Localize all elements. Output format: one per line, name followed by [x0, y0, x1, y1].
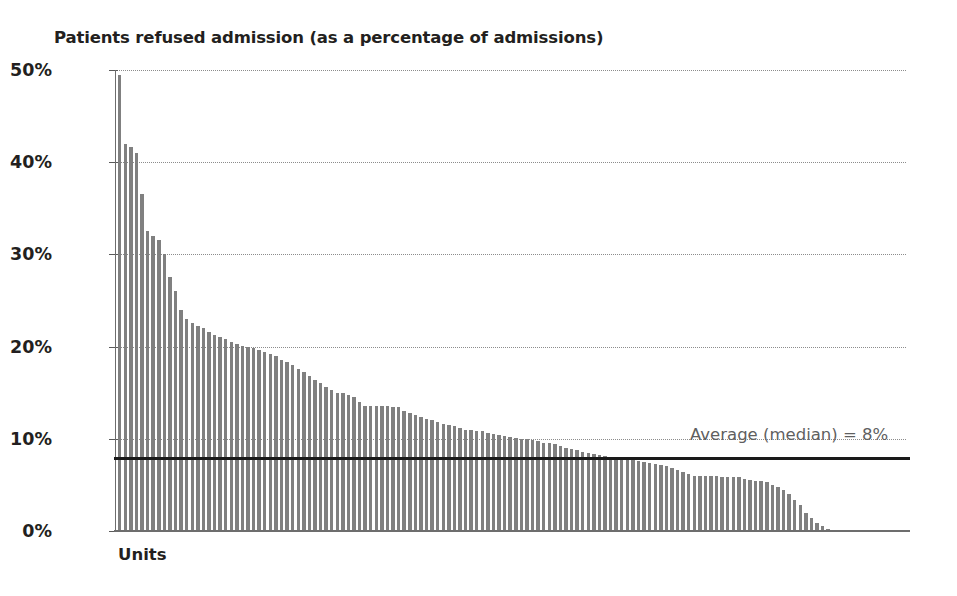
bar [704, 476, 707, 531]
bar [497, 435, 500, 531]
bar [302, 372, 305, 531]
bar [308, 376, 311, 531]
bar [246, 347, 249, 531]
bar [313, 380, 316, 531]
page-title: Patients refused admission (as a percent… [54, 28, 603, 47]
bar [754, 481, 757, 531]
y-tick-label-50: 50% [0, 60, 52, 80]
bar [642, 462, 645, 531]
bar [230, 342, 233, 531]
bar [687, 474, 690, 531]
bar [118, 75, 121, 531]
bar [732, 477, 735, 531]
bar [681, 472, 684, 531]
bar [168, 277, 171, 531]
bar [503, 436, 506, 531]
bar [570, 449, 573, 531]
y-tick-20 [109, 347, 118, 348]
bar [715, 476, 718, 531]
bar [654, 464, 657, 531]
bar [464, 430, 467, 531]
bar [581, 452, 584, 531]
bar [280, 360, 283, 531]
bar [776, 487, 779, 531]
bar [481, 431, 484, 531]
bar [363, 406, 366, 531]
bar [676, 470, 679, 531]
bar [453, 426, 456, 531]
bar [269, 354, 272, 531]
bar [336, 393, 339, 531]
bar [787, 494, 790, 531]
y-tick-30 [109, 254, 118, 255]
y-tick-label-10: 10% [0, 429, 52, 449]
bar [759, 481, 762, 531]
bar [414, 415, 417, 531]
bar [469, 430, 472, 531]
bar [129, 147, 132, 531]
bar [380, 406, 383, 531]
bar [425, 419, 428, 531]
bar [263, 352, 266, 531]
bar [330, 390, 333, 531]
bar [799, 505, 802, 531]
bar [135, 153, 138, 531]
bar [179, 310, 182, 531]
bar [531, 440, 534, 531]
bar [575, 450, 578, 531]
bar [191, 323, 194, 531]
bar [369, 406, 372, 531]
bar [397, 407, 400, 531]
bar [804, 513, 807, 531]
bar [358, 402, 361, 531]
bar [631, 460, 634, 531]
bar [447, 425, 450, 531]
bar [564, 448, 567, 531]
bar [241, 346, 244, 531]
bar [603, 456, 606, 531]
bar [213, 335, 216, 531]
bar [408, 413, 411, 531]
bar [709, 476, 712, 531]
bar [475, 431, 478, 531]
bar [157, 240, 160, 531]
y-tick-50 [109, 70, 118, 71]
y-tick-label-0: 0% [0, 521, 52, 541]
bar [235, 344, 238, 531]
y-tick-label-30: 30% [0, 244, 52, 264]
y-tick-label-20: 20% [0, 337, 52, 357]
bar [274, 356, 277, 531]
bar [525, 439, 528, 531]
bar [430, 420, 433, 531]
bar [737, 477, 740, 531]
y-axis-line [115, 70, 116, 531]
bar [419, 417, 422, 531]
x-axis-line [114, 530, 910, 532]
bar [391, 407, 394, 531]
bar [402, 411, 405, 531]
bar [151, 236, 154, 531]
bar [207, 332, 210, 531]
bar [665, 466, 668, 531]
bar [726, 477, 729, 531]
bar [520, 439, 523, 531]
bar [185, 319, 188, 531]
bar [670, 468, 673, 531]
bar [748, 480, 751, 531]
bar [486, 433, 489, 531]
bar [620, 458, 623, 531]
y-axis-labels: 50%40%30%20%10%0% [0, 70, 52, 531]
bar-series [118, 70, 832, 531]
bar [598, 455, 601, 531]
median-reference-line [114, 457, 910, 460]
chart-canvas: Patients refused admission (as a percent… [0, 0, 957, 596]
plot-area [118, 70, 832, 531]
bar [347, 395, 350, 531]
bar [196, 326, 199, 531]
x-axis-title: Units [118, 545, 167, 564]
y-tick-10 [109, 439, 118, 440]
bar [542, 443, 545, 532]
bar [146, 231, 149, 531]
bar [257, 350, 260, 531]
bar [124, 144, 127, 531]
